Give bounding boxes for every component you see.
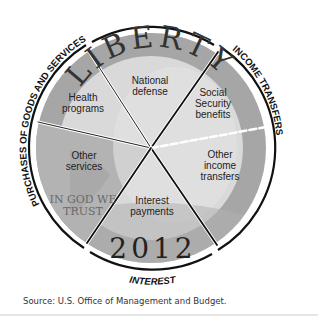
label-health-1: Health <box>69 92 98 103</box>
year-text: 2012 <box>109 232 196 265</box>
motto-line2: TRUST <box>63 205 103 218</box>
label-defense-1: National <box>132 75 169 86</box>
label-interest-2: payments <box>130 206 173 217</box>
label-oit-3: transfers <box>201 171 240 182</box>
label-interest-1: Interest <box>135 195 169 206</box>
source-note: Source: U.S. Office of Management and Bu… <box>23 296 227 306</box>
label-ss-3: benefits <box>195 109 230 120</box>
label-oit-1: Other <box>207 149 233 160</box>
spending-coin-diagram: LIBERTY IN GOD WE TRUST 2012 Health prog… <box>0 0 318 290</box>
label-other-services-1: Other <box>71 150 97 161</box>
label-health-2: programs <box>62 103 104 114</box>
label-oit-2: income <box>204 160 237 171</box>
label-other-services-2: services <box>66 161 103 172</box>
label-ss-1: Social <box>199 87 226 98</box>
label-defense-2: defense <box>132 86 168 97</box>
label-ss-2: Security <box>195 98 231 109</box>
label-interest-group: INTEREST <box>129 273 178 286</box>
